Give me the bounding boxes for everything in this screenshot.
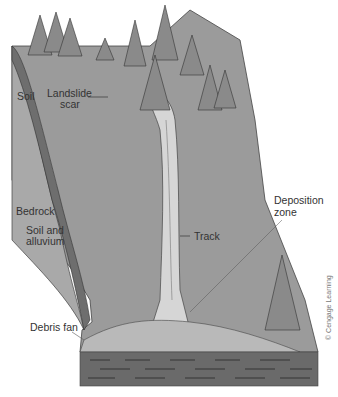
label-soil: Soil bbox=[17, 91, 35, 102]
label-track: Track bbox=[194, 231, 220, 242]
label-landslide-scar-2: scar bbox=[60, 99, 80, 110]
label-soil-alluvium-2: alluvium bbox=[26, 236, 65, 247]
label-debris-fan: Debris fan bbox=[30, 322, 78, 333]
label-bedrock: Bedrock bbox=[16, 206, 55, 217]
credit-text: © Cengage Learning bbox=[325, 275, 332, 340]
label-deposition-1: Deposition bbox=[274, 195, 324, 206]
label-deposition-2: zone bbox=[274, 207, 297, 218]
